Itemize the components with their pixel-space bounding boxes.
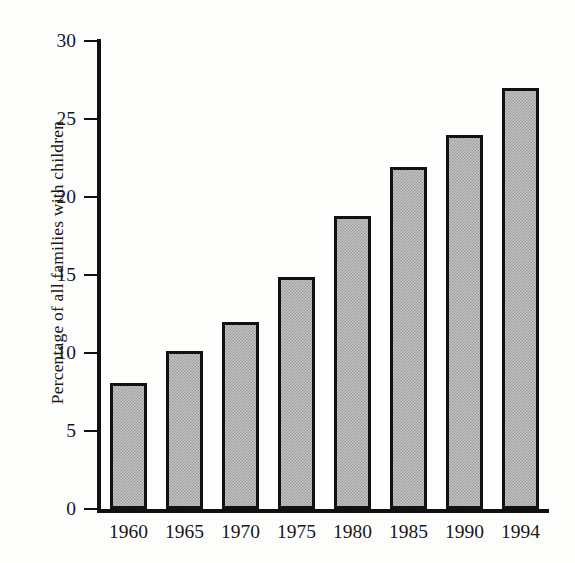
y-axis-tick-label: 20 — [57, 187, 77, 207]
y-axis-tick-label: 15 — [57, 265, 77, 285]
plot-area: 051015202530 196019651970197519801985199… — [97, 41, 549, 509]
y-axis-tick-label: 5 — [66, 421, 76, 441]
y-axis-tick: 10 — [84, 352, 97, 355]
bar — [390, 167, 426, 509]
bar-slot: 1985 — [381, 41, 437, 509]
y-axis-tick-label: 10 — [57, 343, 77, 363]
y-axis-tick: 5 — [84, 430, 97, 433]
x-axis-tick-label: 1990 — [445, 522, 484, 542]
y-axis-tick-label: 0 — [66, 499, 76, 519]
y-axis-tick: 20 — [84, 196, 97, 199]
bar — [446, 135, 482, 509]
x-axis-tick-label: 1994 — [501, 522, 540, 542]
bar — [502, 88, 538, 509]
x-axis-tick-label: 1975 — [277, 522, 316, 542]
x-axis-line — [97, 509, 549, 513]
bar-chart-figure: Percentage of all families with children… — [0, 0, 575, 563]
bar-slot: 1965 — [157, 41, 213, 509]
bar-group: 19601965197019751980198519901994 — [101, 41, 549, 509]
x-axis-tick-label: 1965 — [165, 522, 204, 542]
y-axis-tick-label: 25 — [57, 109, 77, 129]
bar — [110, 383, 146, 509]
x-axis-tick-label: 1970 — [221, 522, 260, 542]
bar-slot: 1975 — [269, 41, 325, 509]
bar-slot: 1990 — [437, 41, 493, 509]
bar — [334, 216, 370, 509]
bar — [222, 322, 258, 509]
bar-slot: 1994 — [493, 41, 549, 509]
y-axis-tick: 15 — [84, 274, 97, 277]
x-axis-tick-label: 1985 — [389, 522, 428, 542]
bar — [166, 351, 202, 509]
bar-slot: 1970 — [213, 41, 269, 509]
y-axis-tick-label: 30 — [57, 31, 77, 51]
y-axis-title: Percentage of all families with children — [47, 28, 68, 498]
bar-slot: 1980 — [325, 41, 381, 509]
y-axis-tick: 0 — [84, 508, 97, 511]
x-axis-tick-label: 1980 — [333, 522, 372, 542]
y-axis-tick: 25 — [84, 118, 97, 121]
bar — [278, 277, 314, 509]
y-axis-tick: 30 — [84, 40, 97, 43]
x-axis-tick-label: 1960 — [109, 522, 148, 542]
bar-slot: 1960 — [101, 41, 157, 509]
